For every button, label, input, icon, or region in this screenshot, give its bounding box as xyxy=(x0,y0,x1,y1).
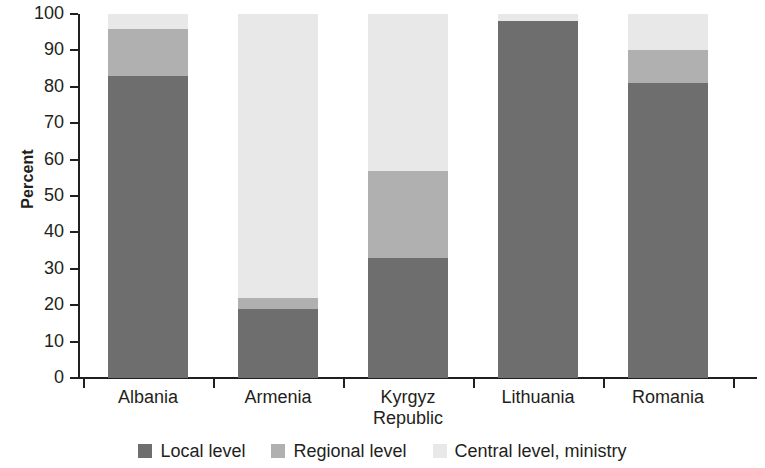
plot-area xyxy=(78,14,757,378)
legend-swatch-icon xyxy=(271,444,285,458)
bar-column xyxy=(628,14,708,378)
y-axis-tick-label: 40 xyxy=(0,222,64,240)
chart-legend: Local levelRegional levelCentral level, … xyxy=(0,441,765,461)
bar-column xyxy=(498,14,578,378)
bar-segment xyxy=(628,14,708,50)
y-axis-tick xyxy=(70,341,78,343)
bar-column xyxy=(368,14,448,378)
y-axis-tick xyxy=(70,377,78,379)
y-axis-tick xyxy=(70,231,78,233)
legend-label: Regional level xyxy=(293,441,406,461)
x-axis-label: Romania xyxy=(603,387,733,408)
y-axis-tick-label: 30 xyxy=(0,259,64,277)
y-axis-tick xyxy=(70,122,78,124)
bar-segment xyxy=(368,258,448,378)
y-axis-tick-label: 100 xyxy=(0,4,64,22)
y-axis-tick-label: 70 xyxy=(0,113,64,131)
legend-swatch-icon xyxy=(433,444,447,458)
x-axis-label: Lithuania xyxy=(473,387,603,408)
y-axis-tick xyxy=(70,86,78,88)
y-axis-tick-label: 90 xyxy=(0,40,64,58)
y-axis-tick xyxy=(70,159,78,161)
bar-segment xyxy=(498,14,578,21)
legend-label: Local level xyxy=(160,441,245,461)
bar-segment xyxy=(498,21,578,378)
bar-column xyxy=(238,14,318,378)
bar-segment xyxy=(368,171,448,258)
x-axis-label-line: Armenia xyxy=(213,387,343,408)
x-axis-label-line: Kyrgyz xyxy=(343,387,473,408)
y-axis-tick xyxy=(70,195,78,197)
bar-segment xyxy=(238,14,318,298)
x-axis-label: KyrgyzRepublic xyxy=(343,387,473,429)
legend-label: Central level, ministry xyxy=(455,441,627,461)
y-axis-tick-label: 10 xyxy=(0,332,64,350)
y-axis-tick-label: 50 xyxy=(0,186,64,204)
x-axis-label: Armenia xyxy=(213,387,343,408)
stacked-bar-chart: Percent 0102030405060708090100 AlbaniaAr… xyxy=(0,0,765,468)
bar-segment xyxy=(108,29,188,76)
x-axis-tick xyxy=(733,379,735,388)
y-axis-tick xyxy=(70,49,78,51)
bar-segment xyxy=(628,50,708,83)
y-axis-tick-label: 0 xyxy=(0,368,64,386)
x-axis-label: Albania xyxy=(83,387,213,408)
y-axis-tick-label: 60 xyxy=(0,150,64,168)
x-axis-label-line: Romania xyxy=(603,387,733,408)
x-axis-label-line: Lithuania xyxy=(473,387,603,408)
y-axis-title: Percent xyxy=(19,129,37,229)
y-axis-tick-label: 80 xyxy=(0,77,64,95)
x-axis-label-line: Republic xyxy=(343,408,473,429)
y-axis-tick-label: 20 xyxy=(0,295,64,313)
legend-item: Central level, ministry xyxy=(433,441,627,461)
bar-segment xyxy=(368,14,448,171)
bar-segment xyxy=(238,309,318,378)
bar-segment xyxy=(108,76,188,378)
y-axis-tick xyxy=(70,304,78,306)
legend-item: Regional level xyxy=(271,441,406,461)
bar-segment xyxy=(108,14,188,29)
x-axis-label-line: Albania xyxy=(83,387,213,408)
legend-item: Local level xyxy=(138,441,245,461)
y-axis-tick xyxy=(70,13,78,15)
legend-swatch-icon xyxy=(138,444,152,458)
bar-segment xyxy=(628,83,708,378)
y-axis-tick xyxy=(70,268,78,270)
bar-column xyxy=(108,14,188,378)
bar-segment xyxy=(238,298,318,309)
